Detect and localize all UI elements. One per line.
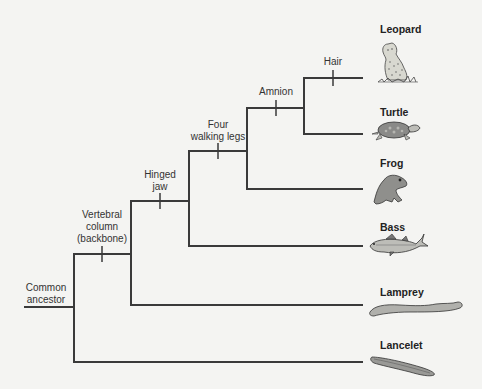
taxon-bass: Bass [380, 221, 405, 233]
turtle-icon [372, 122, 420, 140]
trait-line: (backbone) [74, 233, 130, 245]
trait-line: Amnion [252, 86, 300, 98]
trait-line: jaw [138, 181, 182, 193]
taxon-leopard: Leopard [380, 23, 421, 35]
trait-line: walking legs [186, 131, 250, 143]
trait-line: Vertebral [74, 209, 130, 221]
trait-line: Hair [316, 56, 350, 68]
cladogram-tree [0, 0, 482, 389]
taxon-lancelet: Lancelet [380, 339, 423, 351]
trait-line: Hinged [138, 169, 182, 181]
frog-icon [374, 175, 407, 204]
taxon-lamprey: Lamprey [380, 286, 424, 298]
root-label-line-2: ancestor [24, 294, 68, 306]
trait-line: Four [186, 119, 250, 131]
root-label-line-1: Common [24, 282, 68, 294]
lancelet-icon [371, 357, 435, 376]
root-label: Common ancestor [24, 282, 68, 306]
taxon-frog: Frog [380, 157, 403, 169]
trait-label-hair: Hair [316, 56, 350, 68]
trait-line: column [74, 221, 130, 233]
leopard-icon [378, 43, 418, 82]
taxon-turtle: Turtle [380, 106, 408, 118]
trait-label-amnion: Amnion [252, 86, 300, 98]
lamprey-icon [370, 302, 463, 316]
trait-label-four-walking-legs: Four walking legs [186, 119, 250, 143]
bass-fish-icon [370, 234, 428, 256]
trait-label-vertebral-column: Vertebral column (backbone) [74, 209, 130, 245]
trait-label-hinged-jaw: Hinged jaw [138, 169, 182, 193]
